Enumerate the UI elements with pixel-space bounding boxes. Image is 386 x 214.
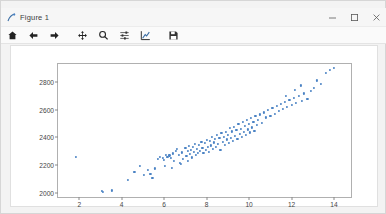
- y-tick-mark: [55, 165, 58, 166]
- minimize-button[interactable]: [321, 8, 343, 27]
- navigation-toolbar: [1, 27, 386, 43]
- scatter-point: [271, 107, 273, 109]
- scatter-point: [267, 109, 269, 111]
- floppy-disk-icon[interactable]: [166, 28, 180, 42]
- x-tick-label: 6: [162, 201, 166, 208]
- x-tick-label: 4: [120, 201, 124, 208]
- scatter-point: [245, 134, 247, 136]
- scatter-point: [127, 178, 129, 180]
- y-tick-label: 2200: [39, 162, 54, 169]
- scatter-point: [75, 155, 77, 157]
- scatter-point: [261, 122, 263, 124]
- scatter-point: [213, 141, 215, 143]
- scatter-point: [172, 152, 174, 154]
- scatter-point: [231, 130, 233, 132]
- scatter-point: [180, 163, 182, 165]
- magnifier-icon[interactable]: [96, 28, 110, 42]
- scatter-point: [214, 138, 216, 140]
- scatter-plot-axes[interactable]: 200022002400260028002468101214: [57, 63, 352, 198]
- scatter-point: [221, 140, 223, 142]
- window-title: Figure 1: [20, 13, 49, 22]
- scatter-point: [197, 152, 199, 154]
- scatter-point: [298, 94, 300, 96]
- scatter-point: [333, 67, 335, 69]
- scatter-point: [163, 159, 165, 161]
- scatter-point: [265, 116, 267, 118]
- x-tick-label: 14: [330, 201, 337, 208]
- scatter-point: [143, 174, 145, 176]
- scatter-point: [223, 136, 225, 138]
- scatter-point: [189, 153, 191, 155]
- scatter-point: [324, 72, 326, 74]
- scatter-point: [254, 115, 256, 117]
- scatter-point: [288, 99, 290, 101]
- scatter-point: [241, 136, 243, 138]
- scatter-point: [232, 140, 234, 142]
- arrow-left-icon[interactable]: [26, 28, 40, 42]
- scatter-point: [173, 160, 175, 162]
- scatter-point: [240, 127, 242, 129]
- scatter-point: [196, 148, 198, 150]
- scatter-point: [202, 152, 204, 154]
- scatter-point: [263, 111, 265, 113]
- close-button[interactable]: [365, 8, 386, 27]
- arrow-right-icon[interactable]: [47, 28, 61, 42]
- scatter-point: [300, 84, 302, 86]
- scatter-point: [242, 121, 244, 123]
- window-controls: [321, 8, 386, 27]
- scatter-point: [101, 191, 103, 193]
- scatter-point: [280, 103, 282, 105]
- scatter-point: [181, 151, 183, 153]
- scatter-point: [184, 147, 186, 149]
- scatter-point: [182, 158, 184, 160]
- scatter-point: [208, 150, 210, 152]
- scatter-point: [147, 169, 149, 171]
- x-tick-mark: [206, 197, 207, 200]
- scatter-point: [229, 127, 231, 129]
- scatter-point: [194, 143, 196, 145]
- scatter-point: [200, 141, 202, 143]
- scatter-point: [244, 125, 246, 127]
- scatter-point: [278, 110, 280, 112]
- scatter-point: [178, 154, 180, 156]
- scatter-point: [191, 156, 193, 158]
- curve-axes-icon[interactable]: [138, 28, 152, 42]
- x-tick-mark: [291, 197, 292, 200]
- scatter-point: [250, 117, 252, 119]
- scatter-point: [255, 124, 257, 126]
- scatter-point: [316, 79, 318, 81]
- scatter-point: [293, 96, 295, 98]
- scatter-point: [306, 98, 308, 100]
- scatter-point: [236, 137, 238, 139]
- scatter-point: [282, 108, 284, 110]
- scatter-point: [276, 105, 278, 107]
- matplotlib-figure-icon: [7, 13, 16, 22]
- scatter-point: [139, 165, 141, 167]
- home-icon[interactable]: [5, 28, 19, 42]
- scatter-point: [286, 106, 288, 108]
- scatter-point: [301, 99, 303, 101]
- maximize-button[interactable]: [343, 8, 365, 27]
- scatter-point: [310, 90, 312, 92]
- y-tick-label: 2000: [39, 189, 54, 196]
- scatter-point: [169, 157, 171, 159]
- y-tick-mark: [55, 137, 58, 138]
- scatter-point: [157, 158, 159, 160]
- scatter-point: [273, 113, 275, 115]
- figure-canvas[interactable]: 200022002400260028002468101214: [10, 45, 378, 207]
- scatter-point: [199, 150, 201, 152]
- scatter-point: [149, 173, 151, 175]
- scatter-point: [198, 144, 200, 146]
- scatter-point: [206, 139, 208, 141]
- sliders-icon[interactable]: [117, 28, 131, 42]
- title-bar-left: Figure 1: [1, 13, 49, 22]
- scatter-point: [190, 149, 192, 151]
- scatter-point: [251, 126, 253, 128]
- scatter-point: [192, 146, 194, 148]
- scatter-point: [294, 89, 296, 91]
- scatter-point: [284, 101, 286, 103]
- scatter-point: [211, 136, 213, 138]
- x-tick-label: 2: [77, 201, 81, 208]
- move-cross-arrows-icon[interactable]: [75, 28, 89, 42]
- scatter-point: [259, 113, 261, 115]
